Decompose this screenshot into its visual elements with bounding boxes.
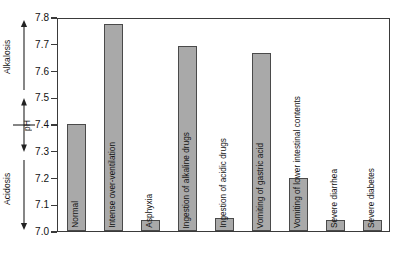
y-axis-tick-label: 7.8 [35,12,49,24]
bar-group: Severe diarrhea [326,19,345,231]
ph-bar-chart-figure: Alkalosis pH Acidosis 7.07.17.27.37.47.5… [0,0,404,253]
bar-group: Ingestion of alkaline drugs [178,19,197,231]
bars-layer: NormalIntense over-ventilationAsphyxiaIn… [58,19,389,231]
y-axis-tick-label: 7.2 [35,173,49,185]
bar-group: Intense over-ventilation [104,19,123,231]
bar-category-label: Vomiting of lower intestinal contents [294,96,302,228]
y-axis-tick-label: 7.1 [35,199,49,211]
y-axis-tick-label: 7.6 [35,66,49,78]
bar-group: Severe diabetes [363,19,382,231]
bar-category-label: Severe diarrhea [331,169,339,228]
bar-group: Ingestion of acidic drugs [215,19,234,231]
y-axis-tick-label: 7.5 [35,92,49,104]
y-axis: 7.07.17.27.37.47.57.67.77.8 [0,0,57,253]
bar-category-label: Ingestion of acidic drugs [220,138,228,228]
y-axis-tick-label: 7.7 [35,39,49,51]
y-axis-tick-label: 7.3 [35,146,49,158]
bar-group: Normal [67,19,86,231]
bar-category-label: Vomiting of gastric acid [257,143,265,228]
bar-group: Asphyxia [141,19,160,231]
bar-category-label: Normal [72,201,80,228]
y-axis-tick-label: 7.0 [35,226,49,238]
bar-category-label: Severe diabetes [368,168,376,228]
bar-group: Vomiting of gastric acid [252,19,271,231]
plot-area: NormalIntense over-ventilationAsphyxiaIn… [57,18,390,232]
bar-category-label: Asphyxia [146,194,154,228]
bar-category-label: Ingestion of alkaline drugs [183,132,191,228]
bar-group: Vomiting of lower intestinal contents [289,19,308,231]
bar-category-label: Intense over-ventilation [109,142,117,228]
y-axis-tick-label: 7.4 [35,119,49,131]
